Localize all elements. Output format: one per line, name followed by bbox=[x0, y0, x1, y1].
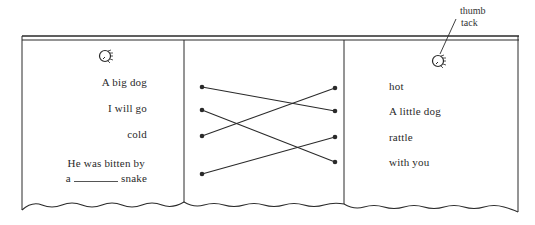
right-item-2: A little dog bbox=[389, 105, 441, 118]
thumb-tack-label-line2: tack bbox=[460, 17, 486, 29]
left-dot-2 bbox=[200, 108, 205, 113]
left-item-2: I will go bbox=[108, 102, 147, 115]
left-item-4-prefix: a bbox=[66, 172, 71, 184]
connector-3-1 bbox=[202, 88, 335, 136]
right-dot-4 bbox=[333, 160, 338, 165]
right-dot-3 bbox=[333, 135, 338, 140]
right-item-1: hot bbox=[389, 80, 404, 93]
left-dot-3 bbox=[200, 134, 205, 139]
right-dot-1 bbox=[333, 86, 338, 91]
matching-lines bbox=[202, 87, 335, 174]
left-item-4-suffix: snake bbox=[121, 172, 147, 184]
thumb-tack-icon-left bbox=[100, 50, 114, 63]
connector-2-4 bbox=[202, 110, 335, 162]
left-item-3: cold bbox=[127, 128, 147, 141]
thumb-tack-label-line1: thumb bbox=[460, 5, 486, 17]
left-item-4: He was bitten by bbox=[68, 157, 145, 170]
top-rail bbox=[22, 36, 519, 40]
right-item-3: rattle bbox=[389, 131, 413, 144]
left-dot-4 bbox=[200, 172, 205, 177]
wavy-bottom-edge bbox=[22, 202, 518, 212]
frame-drawing bbox=[0, 0, 535, 225]
thumb-tack-icon-right bbox=[433, 55, 447, 68]
left-item-1: A big dog bbox=[102, 76, 147, 89]
matching-worksheet-figure: thumb tack A big dog I will go cold He w… bbox=[0, 0, 535, 225]
connector-1-2 bbox=[202, 87, 335, 111]
right-dots bbox=[333, 86, 338, 165]
thumb-tack-label: thumb tack bbox=[460, 5, 486, 29]
right-dot-2 bbox=[333, 109, 338, 114]
fill-in-blank bbox=[74, 172, 118, 182]
left-dots bbox=[200, 85, 205, 177]
connector-4-3 bbox=[202, 137, 335, 174]
right-item-4: with you bbox=[389, 156, 429, 169]
left-dot-1 bbox=[200, 85, 205, 90]
left-item-4-line2: asnake bbox=[66, 172, 147, 185]
